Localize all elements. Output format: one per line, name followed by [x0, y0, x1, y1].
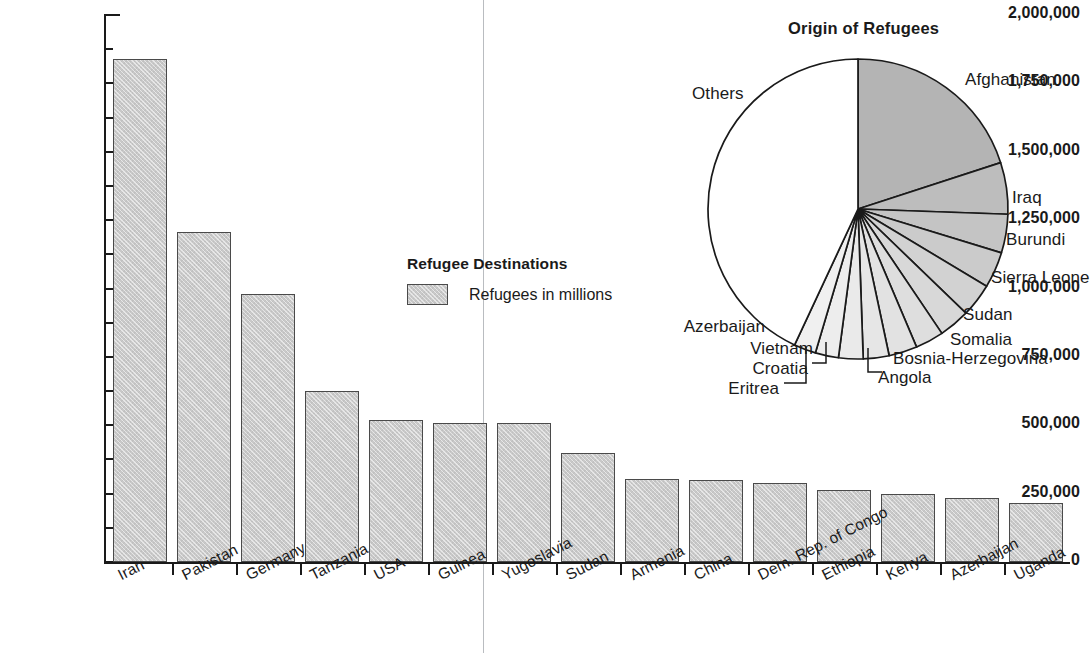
pie-slice-label: Others	[692, 84, 744, 104]
pie-slice-label: Croatia	[752, 359, 808, 379]
pie-slice-label: Vietnam	[750, 339, 813, 359]
pie-slice-label: Bosnia-Herzegovina	[893, 349, 1048, 369]
pie-slice-label: Eritrea	[728, 379, 779, 399]
pie-slice-label: Iraq	[1012, 188, 1042, 208]
pie-slice-label: Sudan	[963, 305, 1013, 325]
pie-slice-label: Burundi	[1006, 230, 1065, 250]
pie-slice-label: Afghanistan	[965, 70, 1056, 90]
pie-slice-label: Sierra Leone	[991, 268, 1090, 288]
pie-slice-label: Somalia	[950, 330, 1012, 350]
pie-slice-label: Azerbaijan	[684, 317, 765, 337]
pie-chart-title: Origin of Refugees	[788, 19, 939, 38]
pie-slice-label: Angola	[878, 368, 932, 388]
